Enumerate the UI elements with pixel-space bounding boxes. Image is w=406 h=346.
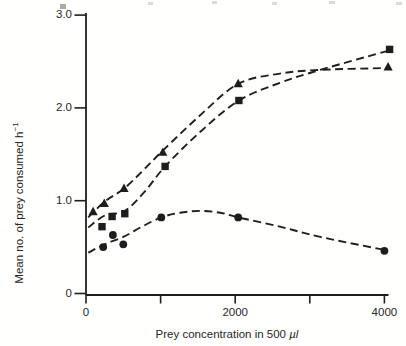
- square-marker: [161, 163, 168, 170]
- x-tick-label-2000: 2000: [222, 307, 248, 319]
- circle-marker: [381, 247, 389, 255]
- circle-marker: [119, 240, 127, 248]
- triangle-series-curve: [88, 68, 388, 217]
- x-tick-label-0: 0: [83, 307, 89, 319]
- axis-ticks: [75, 15, 385, 303]
- y-tick-label-1: 1.0: [56, 195, 72, 207]
- circle-marker: [157, 214, 165, 222]
- x-axis-title-unit: µl: [289, 328, 298, 340]
- triangle-marker: [384, 62, 393, 70]
- square-marker: [386, 46, 393, 53]
- y-tick-label-2: 2.0: [56, 102, 72, 114]
- square-series-curve: [88, 50, 389, 227]
- y-axis-title-text: Mean no. of prey consumed h: [13, 131, 25, 283]
- x-tick-label-4000: 4000: [372, 307, 398, 319]
- square-marker: [108, 213, 115, 220]
- axes: [86, 13, 389, 295]
- square-series-points: [98, 46, 393, 231]
- circle-marker: [109, 231, 117, 239]
- circle-series-points: [99, 214, 388, 255]
- x-axis-title: Prey concentration in 500 µl: [156, 329, 299, 341]
- triangle-marker: [89, 207, 98, 215]
- prey-consumption-chart: [0, 0, 406, 346]
- square-marker: [121, 210, 128, 217]
- circle-marker: [234, 214, 242, 222]
- scan-artifacts: [60, 1, 402, 9]
- y-axis-title: Mean no. of prey consumed h−1: [12, 122, 25, 283]
- y-tick-label-0: 0: [66, 288, 72, 300]
- y-tick-label-3: 3.0: [56, 9, 72, 21]
- circle-marker: [99, 243, 107, 251]
- scanned-chart-figure: Mean no. of prey consumed h−1 Prey conce…: [0, 0, 406, 346]
- square-marker: [235, 97, 242, 104]
- y-axis-title-superscript: −1: [11, 122, 20, 131]
- x-axis-title-text: Prey concentration in 500: [156, 328, 290, 340]
- triangle-series-points: [89, 62, 393, 215]
- square-marker: [98, 223, 105, 230]
